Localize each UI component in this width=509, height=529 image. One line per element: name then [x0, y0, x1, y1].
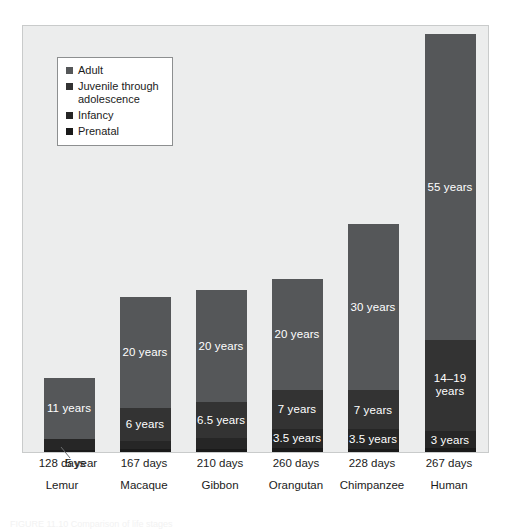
legend-item-juvenile: Juvenile through adolescence: [66, 80, 162, 106]
segment-adult-gibbon: 20 years: [196, 290, 247, 401]
species-label-lemur: Lemur: [17, 478, 107, 492]
segment-juv-human: 14–19 years: [425, 340, 476, 432]
lemur-prenatal-callout: .5 year: [62, 456, 97, 470]
bar-chimpanzee: 30 years7 years3.5 years: [348, 224, 399, 452]
legend-item-infancy: Infancy: [66, 109, 162, 122]
segment-value-label: 14–19 years: [425, 372, 476, 398]
segment-adult-macaque: 20 years: [120, 297, 171, 408]
segment-pre-human: [425, 448, 476, 452]
segment-inf-gibbon: [196, 438, 247, 449]
segment-inf-macaque: [120, 441, 171, 449]
segment-inf-chimpanzee: 3.5 years: [348, 429, 399, 448]
bar-orangutan: 20 years7 years3.5 years: [272, 279, 323, 452]
bar-gibbon: 20 years6.5 years: [196, 290, 247, 452]
axis-column-human: 267 daysHuman: [404, 456, 494, 492]
segment-juv-macaque: 6 years: [120, 408, 171, 441]
segment-adult-lemur: 11 years: [44, 378, 95, 439]
segment-value-label: 30 years: [348, 300, 399, 313]
legend-label-adult: Adult: [78, 64, 103, 77]
legend-swatch-prenatal: [66, 128, 73, 135]
segment-value-label: 20 years: [196, 340, 247, 353]
segment-value-label: 3 years: [425, 433, 476, 446]
segment-adult-orangutan: 20 years: [272, 279, 323, 390]
segment-adult-human: 55 years: [425, 34, 476, 340]
segment-pre-chimpanzee: [348, 449, 399, 452]
segment-inf-human: 3 years: [425, 431, 476, 448]
chart-legend: Adult Juvenile through adolescence Infan…: [57, 57, 173, 146]
segment-adult-chimpanzee: 30 years: [348, 224, 399, 391]
segment-juv-gibbon: 6.5 years: [196, 402, 247, 438]
species-label-human: Human: [404, 478, 494, 492]
segment-inf-orangutan: 3.5 years: [272, 429, 323, 448]
figure-life-stages-chart: 11 years20 years6 years20 years6.5 years…: [0, 0, 509, 529]
bar-human: 55 years14–19 years3 years: [425, 34, 476, 452]
legend-label-prenatal: Prenatal: [78, 125, 119, 138]
legend-swatch-infancy: [66, 112, 73, 119]
segment-pre-orangutan: [272, 448, 323, 452]
segment-value-label: 55 years: [425, 180, 476, 193]
segment-pre-gibbon: [196, 449, 247, 452]
legend-swatch-juvenile: [66, 83, 73, 90]
legend-item-prenatal: Prenatal: [66, 125, 162, 138]
segment-value-label: 3.5 years: [348, 432, 399, 445]
segment-juv-chimpanzee: 7 years: [348, 390, 399, 429]
segment-value-label: 6 years: [120, 418, 171, 431]
segment-value-label: 11 years: [44, 402, 95, 415]
segment-juv-orangutan: 7 years: [272, 390, 323, 429]
plot-area: 11 years20 years6 years20 years6.5 years…: [22, 25, 489, 453]
segment-value-label: 3.5 years: [272, 432, 323, 445]
segment-value-label: 6.5 years: [196, 413, 247, 426]
legend-label-juvenile: Juvenile through adolescence: [78, 80, 159, 106]
figure-caption: FIGURE 11.10 Comparison of life stages: [10, 519, 172, 529]
legend-label-infancy: Infancy: [78, 109, 113, 122]
legend-item-adult: Adult: [66, 64, 162, 77]
bar-lemur: 11 years: [44, 378, 95, 452]
segment-pre-macaque: [120, 449, 171, 452]
segment-value-label: 7 years: [272, 403, 323, 416]
legend-swatch-adult: [66, 67, 73, 74]
segment-value-label: 20 years: [120, 346, 171, 359]
segment-value-label: 20 years: [272, 328, 323, 341]
gestation-label-human: 267 days: [404, 456, 494, 470]
bar-macaque: 20 years6 years: [120, 297, 171, 452]
segment-value-label: 7 years: [348, 403, 399, 416]
